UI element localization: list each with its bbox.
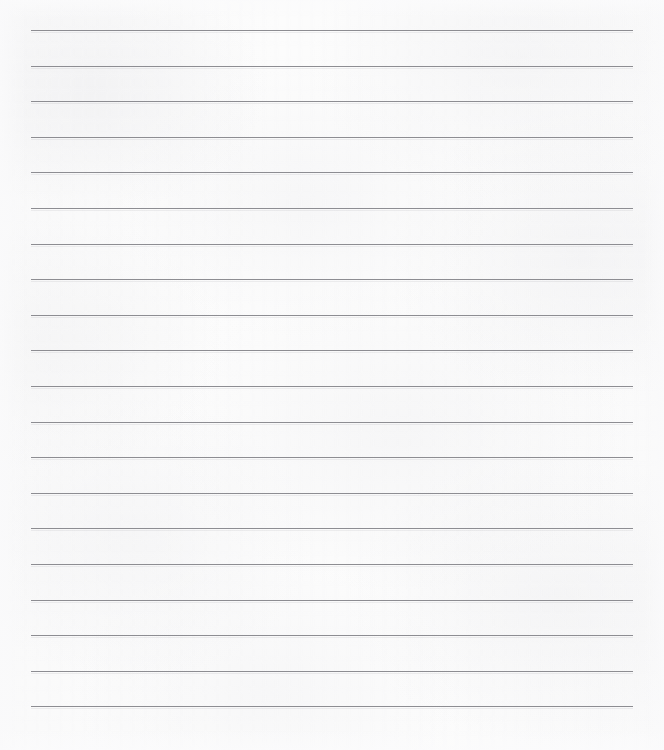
ruled-line	[31, 315, 633, 316]
ruled-line	[31, 422, 633, 423]
lined-paper-page	[0, 0, 664, 750]
ruled-line	[31, 208, 633, 209]
ruled-line	[31, 172, 633, 173]
ruled-line	[31, 66, 633, 67]
ruled-line	[31, 671, 633, 672]
ruled-line	[31, 350, 633, 351]
ruled-line	[31, 706, 633, 707]
ruled-line	[31, 279, 633, 280]
ruled-line	[31, 528, 633, 529]
ruled-line	[31, 101, 633, 102]
ruled-line-layer	[0, 0, 664, 750]
ruled-line	[31, 564, 633, 565]
ruled-line	[31, 30, 633, 31]
ruled-line	[31, 386, 633, 387]
ruled-line	[31, 635, 633, 636]
ruled-line	[31, 493, 633, 494]
ruled-line	[31, 600, 633, 601]
ruled-line	[31, 457, 633, 458]
ruled-line	[31, 244, 633, 245]
ruled-line	[31, 137, 633, 138]
